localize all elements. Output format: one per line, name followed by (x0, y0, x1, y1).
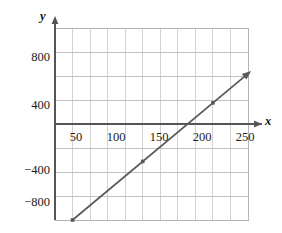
data-point-marker (141, 160, 145, 164)
y-tick-label-minus-800: −800 (8, 196, 50, 209)
graph-figure: 800 400 −400 −800 50 100 150 200 250 y x (0, 0, 282, 233)
x-tick-label-100: 100 (96, 131, 136, 144)
data-point-marker (71, 218, 75, 222)
x-axis-label: x (265, 115, 271, 128)
x-tick-label-250: 250 (225, 131, 265, 144)
x-tick-label-200: 200 (182, 131, 222, 144)
x-tick-label-50: 50 (56, 131, 96, 144)
x-axis-arrowhead (254, 121, 262, 128)
data-point-marker (211, 101, 215, 105)
y-axis-label: y (40, 10, 46, 23)
x-tick-label-150: 150 (139, 131, 179, 144)
y-tick-label-800: 800 (14, 51, 50, 64)
y-tick-label-minus-400: −400 (8, 164, 50, 177)
y-axis-arrowhead (52, 16, 59, 24)
y-tick-label-400: 400 (14, 99, 50, 112)
